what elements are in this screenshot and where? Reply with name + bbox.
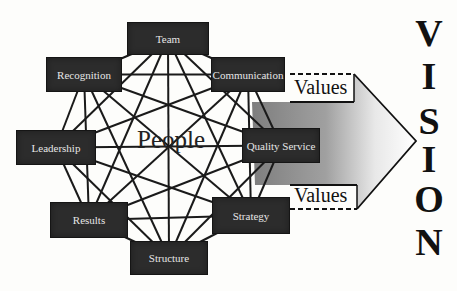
- node-recognition: Recognition: [46, 57, 122, 92]
- node-label: Leadership: [32, 142, 81, 154]
- node-communication: Communication: [211, 57, 285, 92]
- values-label-top: Values: [294, 76, 347, 99]
- vision-letter-v: V: [414, 18, 444, 48]
- node-label: Strategy: [233, 210, 270, 222]
- values-label-bottom: Values: [294, 184, 347, 207]
- vision-letter-o: O: [414, 184, 444, 214]
- node-leadership: Leadership: [16, 130, 96, 165]
- node-quality-service: Quality Service: [242, 128, 320, 163]
- node-label: Communication: [213, 69, 284, 81]
- node-label: Results: [73, 214, 105, 226]
- vision-letter-s: S: [414, 106, 444, 136]
- node-label: Quality Service: [247, 140, 316, 152]
- node-results: Results: [50, 202, 128, 238]
- vision-letter-n: N: [414, 227, 444, 257]
- node-label: Structure: [149, 252, 189, 264]
- node-label: Team: [156, 33, 180, 45]
- people-label: People: [137, 126, 205, 154]
- node-strategy: Strategy: [212, 197, 290, 234]
- node-team: Team: [127, 22, 209, 55]
- vision-letter-i-2: I: [414, 144, 444, 174]
- node-label: Recognition: [57, 69, 111, 81]
- node-structure: Structure: [130, 241, 208, 275]
- vision-letter-i: I: [414, 61, 444, 91]
